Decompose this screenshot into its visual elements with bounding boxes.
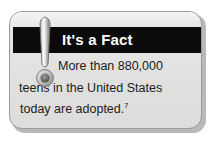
card-title: It's a Fact: [62, 30, 133, 50]
fact-callout-card: It's a Fact: [9, 11, 202, 129]
exclamation-mark-icon: [34, 16, 56, 88]
page-canvas: It's a Fact: [0, 0, 214, 144]
footnote-marker: 7: [124, 101, 128, 110]
body-line-3-wrapper: today are adopted.7: [19, 99, 197, 121]
body-line-3: today are adopted.: [20, 102, 124, 116]
